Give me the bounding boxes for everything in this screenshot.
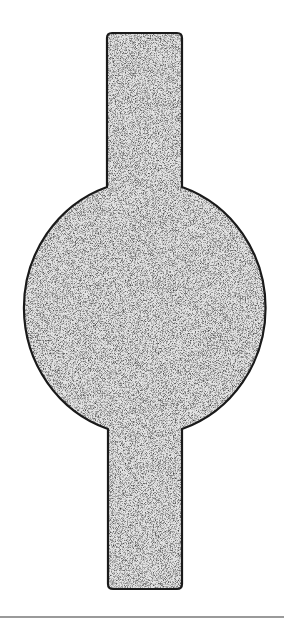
bulge-silhouette-diagram [0, 0, 284, 622]
shape-fill [0, 0, 284, 622]
baseline-divider [0, 616, 284, 618]
